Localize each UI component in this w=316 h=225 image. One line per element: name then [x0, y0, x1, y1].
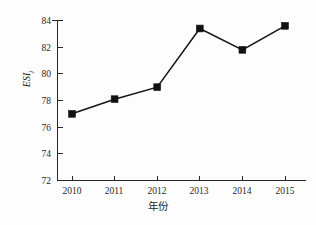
x-tick-label: 2015	[276, 186, 295, 196]
data-series-line	[72, 26, 285, 114]
x-tick-label: 2012	[148, 186, 167, 196]
x-axis-title: 年份	[0, 198, 316, 213]
y-axis-title-text: ESI	[21, 73, 32, 87]
x-tick-label: 2014	[233, 186, 252, 196]
y-tick-label: 78	[42, 96, 52, 106]
y-tick-marks	[58, 21, 63, 181]
y-tick-label: 84	[42, 16, 52, 26]
y-tick-label: 72	[42, 176, 52, 186]
y-tick-label: 82	[42, 43, 52, 53]
data-point-marker	[282, 22, 289, 29]
chart-container: 72 74 76 78 80 82 84 2010 2011 2012 2013…	[0, 0, 316, 225]
x-tick-label: 2011	[105, 186, 124, 196]
data-point-marker	[111, 96, 118, 103]
y-tick-label: 80	[42, 69, 52, 79]
y-tick-label: 76	[42, 123, 52, 133]
line-chart-plot: 72 74 76 78 80 82 84 2010 2011 2012 2013…	[0, 0, 316, 225]
data-point-marker	[196, 25, 203, 32]
x-tick-label: 2010	[63, 186, 82, 196]
y-tick-label: 74	[42, 149, 52, 159]
data-point-marker	[154, 84, 161, 91]
y-axis-line	[52, 21, 58, 181]
data-point-marker	[239, 46, 246, 53]
data-point-marker	[69, 110, 76, 117]
x-tick-marks	[72, 176, 285, 181]
y-axis-title: ESIj	[21, 57, 35, 101]
y-axis-title-subscript: j	[27, 71, 35, 73]
x-tick-label: 2013	[190, 186, 209, 196]
